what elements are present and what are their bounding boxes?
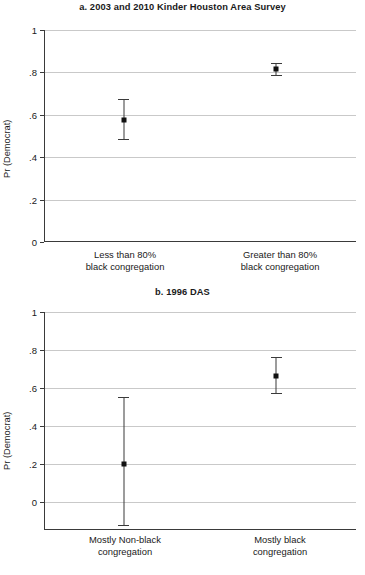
- panel-b-gridline-02: [44, 464, 356, 465]
- panel-a-ytick-label-0: 0: [32, 237, 37, 248]
- panel-a-gridline-06: [44, 115, 356, 116]
- panel-b-datapoint-1: [121, 461, 126, 466]
- panel-a-xcat-1-line1: Less than 80%: [94, 249, 156, 260]
- panel-a-datapoint-1: [121, 118, 126, 123]
- panel-b-xcat-1-line1: Mostly Non-black: [89, 534, 161, 545]
- panel-b-y-axis-label: Pr (Democrat): [2, 412, 12, 470]
- panel-a-tick-0: [40, 242, 44, 243]
- panel-b-y-axis-line: [44, 312, 45, 530]
- panel-a-xcat-2: Greater than 80% black congregation: [241, 249, 320, 272]
- panel-a: a. 2003 and 2010 Kinder Houston Area Sur…: [0, 0, 365, 285]
- panel-b-datapoint-2: [274, 373, 279, 378]
- panel-b-gridline-06: [44, 388, 356, 389]
- panel-a-plot-area: 1 .8 .6 .4 .2 0: [44, 30, 356, 242]
- panel-a-errorbar-2-cap-top: [271, 63, 282, 64]
- panel-b-gridline-0: [44, 502, 356, 503]
- panel-b-errorbar-2-cap-top: [271, 357, 282, 358]
- panel-b-plot-area: 1 .8 .6 .4 .2 0: [44, 312, 356, 530]
- panel-a-errorbar-2-cap-bottom: [271, 75, 282, 76]
- panel-a-xcat-2-line2: black congregation: [241, 261, 320, 273]
- panel-a-errorbar-1-cap-top: [118, 99, 129, 100]
- panel-b-x-axis-line: [44, 529, 356, 530]
- panel-a-gridline-08: [44, 72, 356, 73]
- panel-a-ytick-label-02: .2: [29, 194, 37, 205]
- figure-two-panel-error-bar-plot: a. 2003 and 2010 Kinder Houston Area Sur…: [0, 0, 365, 575]
- panel-a-errorbar-1-cap-bottom: [118, 139, 129, 140]
- panel-b-title: b. 1996 DAS: [0, 287, 365, 297]
- panel-b-ytick-label-0: 0: [32, 496, 37, 507]
- panel-b-xcat-2: Mostly black congregation: [253, 534, 307, 557]
- panel-b-xcat-2-line1: Mostly black: [254, 534, 306, 545]
- panel-b-ytick-label-06: .6: [29, 382, 37, 393]
- panel-a-title: a. 2003 and 2010 Kinder Houston Area Sur…: [0, 2, 365, 12]
- panel-a-xcat-2-line1: Greater than 80%: [243, 249, 317, 260]
- panel-b-ytick-label-04: .4: [29, 420, 37, 431]
- panel-b-xcat-2-line2: congregation: [253, 546, 307, 558]
- panel-b-ytick-label-1: 1: [32, 307, 37, 318]
- panel-a-ytick-label-06: .6: [29, 109, 37, 120]
- panel-b: b. 1996 DAS 1 .8 .6 .4 .2 0: [0, 285, 365, 575]
- panel-a-datapoint-2: [274, 67, 279, 72]
- panel-b-errorbar-1-cap-top: [118, 397, 129, 398]
- panel-a-y-axis-line: [44, 30, 45, 242]
- panel-b-errorbar-1-cap-bottom: [118, 525, 129, 526]
- panel-a-ytick-label-1: 1: [32, 25, 37, 36]
- panel-a-y-axis-label: Pr (Democrat): [2, 120, 12, 178]
- panel-a-ytick-label-08: .8: [29, 67, 37, 78]
- panel-a-x-axis-line: [44, 241, 356, 242]
- panel-b-gridline-04: [44, 426, 356, 427]
- panel-a-gridline-04: [44, 157, 356, 158]
- panel-a-ytick-label-04: .4: [29, 152, 37, 163]
- panel-b-ytick-label-08: .8: [29, 344, 37, 355]
- panel-a-xcat-1: Less than 80% black congregation: [86, 249, 165, 272]
- panel-a-gridline-02: [44, 200, 356, 201]
- panel-b-errorbar-2-cap-bottom: [271, 393, 282, 394]
- panel-b-xcat-1-line2: congregation: [89, 546, 161, 558]
- panel-b-ytick-label-02: .2: [29, 458, 37, 469]
- panel-b-gridline-08: [44, 350, 356, 351]
- panel-b-xcat-1: Mostly Non-black congregation: [89, 534, 161, 557]
- panel-a-xcat-1-line2: black congregation: [86, 261, 165, 273]
- panel-a-gridline-1: [44, 30, 356, 31]
- panel-b-gridline-1: [44, 312, 356, 313]
